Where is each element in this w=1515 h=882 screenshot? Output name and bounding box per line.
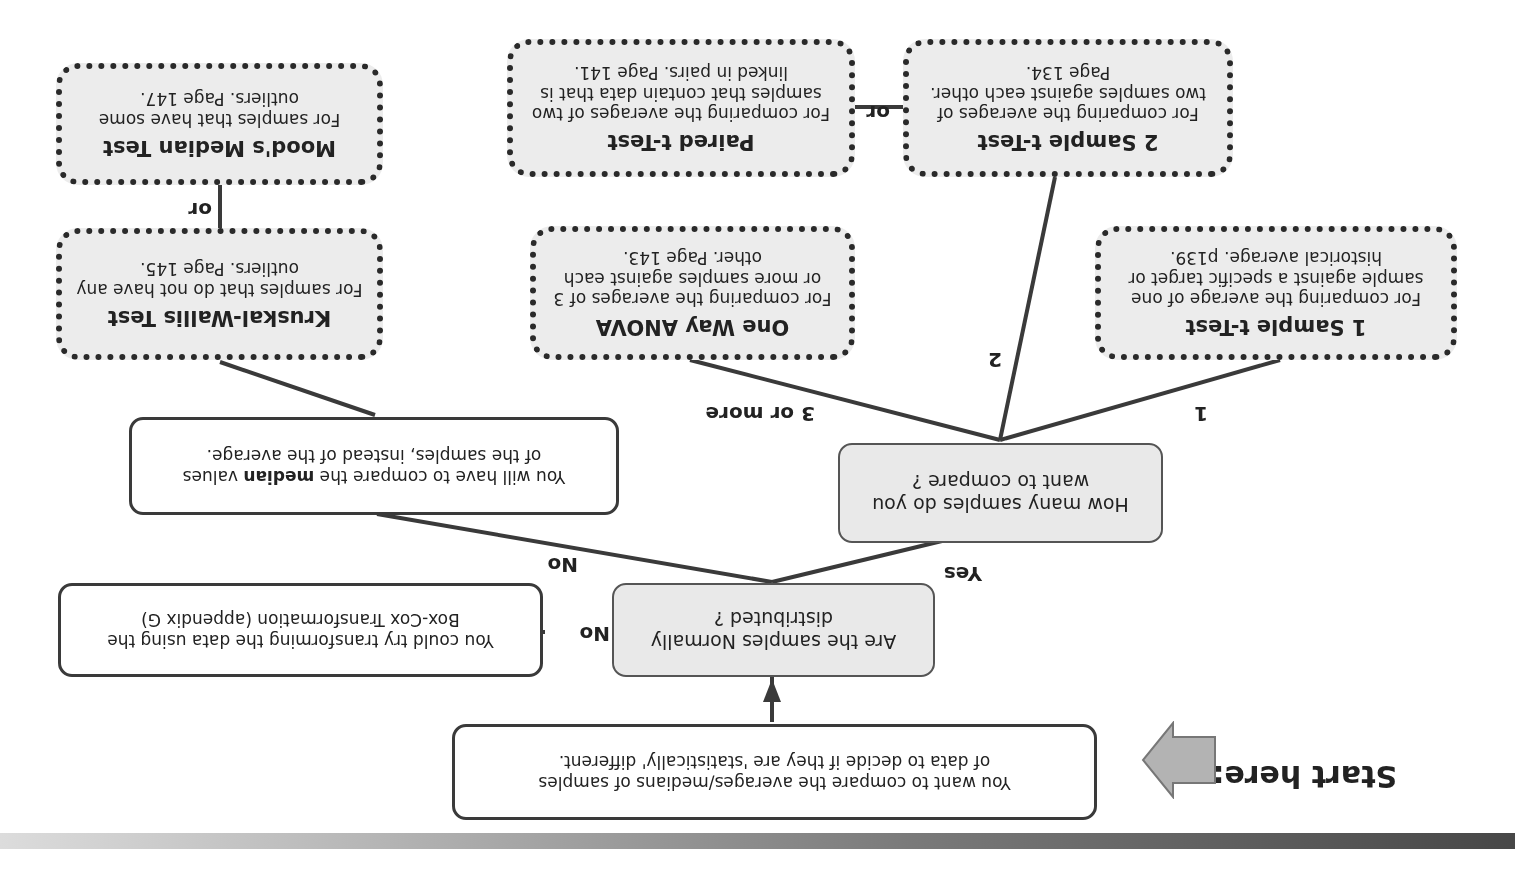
normality-line1: Are the samples Normally bbox=[651, 630, 897, 653]
start-box-line2: of data to decide if they are 'statistic… bbox=[559, 751, 991, 772]
boxcox-line1: You could try transforming the data usin… bbox=[107, 630, 494, 651]
flowchart-canvas: Start here: You want to compare the aver… bbox=[0, 0, 1515, 882]
start-arrow-icon bbox=[1141, 721, 1217, 799]
test-box-1-sample-t: 1 Sample t-Test For comparing the averag… bbox=[1095, 226, 1457, 360]
test-title: Kruskal-Wallis Test bbox=[108, 304, 332, 330]
test-desc: For comparing the average of one sample … bbox=[1115, 247, 1437, 309]
normality-question-box: Are the samples Normally distributed ? bbox=[612, 583, 935, 677]
median-note-box: You will have to compare the median valu… bbox=[129, 417, 619, 515]
median-note-line2: of the samples, instead of the average. bbox=[207, 445, 542, 466]
how-many-line1: How many samples do you bbox=[872, 493, 1129, 516]
test-title: 2 Sample t-Test bbox=[978, 128, 1159, 154]
arrowhead-icon bbox=[763, 679, 781, 702]
normality-line2: distributed ? bbox=[714, 607, 833, 630]
test-box-2-sample-t: 2 Sample t-Test For comparing the averag… bbox=[903, 39, 1233, 177]
test-box-one-way-anova: One Way ANOVA For comparing the averages… bbox=[530, 226, 855, 360]
test-desc: For comparing the averages of 3 or more … bbox=[550, 247, 835, 309]
boxcox-line2: Box-Cox Transformation (appendix G) bbox=[141, 609, 460, 630]
test-desc: For samples that do not have any outlier… bbox=[76, 258, 363, 299]
count-label-1: 1 bbox=[1194, 402, 1208, 426]
test-title: One Way ANOVA bbox=[596, 313, 790, 339]
or-label-ttests: or bbox=[866, 101, 890, 125]
yes-label: Yes bbox=[944, 562, 982, 586]
median-note-line1: You will have to compare the median valu… bbox=[183, 466, 566, 487]
test-desc: For comparing the averages of two sample… bbox=[527, 62, 835, 124]
no-label: No bbox=[548, 553, 578, 577]
normality-no-label: No bbox=[580, 622, 610, 646]
test-title: Mood's Median Test bbox=[103, 134, 336, 160]
kruskal-connector bbox=[220, 362, 375, 415]
how-many-line2: want to compare ? bbox=[912, 470, 1089, 493]
test-box-moods-median: Mood's Median Test For samples that have… bbox=[56, 63, 383, 185]
boxcox-box: You could try transforming the data usin… bbox=[58, 583, 543, 677]
start-box-line1: You want to compare the averages/medians… bbox=[538, 772, 1010, 793]
test-desc: For samples that have some outliers. Pag… bbox=[76, 88, 363, 129]
test-box-paired-t: Paired t-Test For comparing the averages… bbox=[507, 39, 855, 177]
test-desc: For comparing the averages of two sample… bbox=[923, 62, 1213, 124]
test-box-kruskal-wallis: Kruskal-Wallis Test For samples that do … bbox=[56, 228, 383, 360]
or-label-nonparam: or bbox=[188, 198, 212, 222]
count-label-2: 2 bbox=[988, 348, 1002, 372]
count-label-3-or-more: 3 or more bbox=[706, 402, 815, 426]
test-title: Paired t-Test bbox=[607, 128, 754, 154]
how-many-question-box: How many samples do you want to compare … bbox=[838, 443, 1163, 543]
start-here-label: Start here: bbox=[1212, 759, 1397, 794]
test-title: 1 Sample t-Test bbox=[1186, 313, 1367, 339]
anova-connector bbox=[690, 360, 1000, 440]
two-sample-connector bbox=[1000, 177, 1055, 440]
start-box: You want to compare the averages/medians… bbox=[452, 724, 1097, 820]
one-sample-connector bbox=[1000, 360, 1280, 440]
